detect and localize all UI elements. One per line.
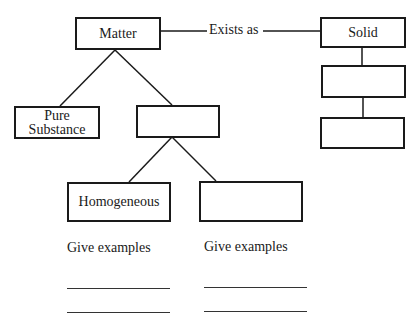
node-matter: Matter xyxy=(75,17,161,50)
edge-label-exists-as: Exists as xyxy=(209,22,258,38)
node-homogeneous: Homogeneous xyxy=(67,182,171,222)
answer-line-left-2[interactable] xyxy=(67,312,170,313)
prompt-give-examples-left: Give examples xyxy=(67,240,151,256)
node-homogeneous-label: Homogeneous xyxy=(79,195,160,209)
node-pure-substance: Pure Substance xyxy=(14,106,100,139)
node-solid-label: Solid xyxy=(348,26,378,40)
node-matter-label: Matter xyxy=(99,27,136,41)
node-state-blank-2[interactable] xyxy=(320,117,405,149)
node-mixture-blank[interactable] xyxy=(136,105,220,138)
connector-lines xyxy=(0,0,418,326)
node-solid: Solid xyxy=(320,17,406,48)
answer-line-right-1[interactable] xyxy=(204,287,307,288)
answer-line-right-2[interactable] xyxy=(204,311,307,312)
answer-line-left-1[interactable] xyxy=(67,288,170,289)
node-state-blank-1[interactable] xyxy=(321,65,406,98)
prompt-give-examples-right: Give examples xyxy=(204,239,288,255)
node-pure-substance-label: Pure Substance xyxy=(22,109,92,137)
node-heterogeneous-blank[interactable] xyxy=(199,181,303,222)
